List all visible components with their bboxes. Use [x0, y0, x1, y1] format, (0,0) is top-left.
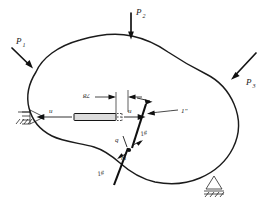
section-callout: 1" [147, 107, 188, 116]
element-dimension-label: 78 [83, 92, 91, 100]
load-P3: P 3 [231, 53, 256, 89]
section-top-arrow [137, 98, 153, 104]
displacement-right-label: u [128, 107, 132, 115]
mechanics-diagram: P 2 P 1 P 3 [0, 0, 273, 219]
load-P3-subscript: 3 [252, 83, 256, 89]
load-P1-label: P [15, 36, 22, 46]
internal-element [74, 114, 122, 121]
figure-canvas: P 2 P 1 P 3 [0, 0, 273, 219]
element-dimension: 78 [83, 90, 143, 114]
load-P1-subscript: 1 [23, 42, 26, 48]
displacement-left: u [37, 107, 73, 120]
support-right [204, 176, 224, 197]
section-callout-label: 1" [181, 107, 188, 115]
load-P2: P 2 [128, 7, 145, 40]
load-P2-label: P [135, 7, 142, 17]
load-P3-label: P [245, 77, 252, 87]
point-q-label: q [115, 136, 119, 144]
section-label-upper: 1# [140, 128, 149, 137]
point-q: q [115, 136, 127, 147]
load-P2-subscript: 2 [143, 13, 146, 19]
displacement-left-label: u [49, 107, 53, 115]
section-label-lower: 1# [97, 168, 106, 177]
load-P1: P 1 [12, 36, 33, 69]
body-outline [28, 34, 239, 183]
